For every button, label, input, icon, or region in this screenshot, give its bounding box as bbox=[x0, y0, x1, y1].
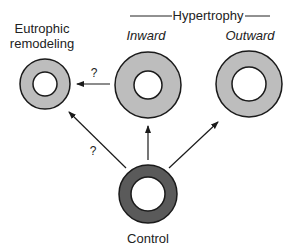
inward-label: Inward bbox=[126, 28, 166, 43]
control-vessel bbox=[119, 165, 177, 223]
edge-label-control-eutrophic: ? bbox=[90, 144, 97, 158]
eutrophic-vessel bbox=[20, 59, 70, 109]
edge-label-inward-eutrophic: ? bbox=[91, 66, 98, 80]
vascular-remodeling-diagram: Hypertrophy Eutrophic remodeling Inward … bbox=[0, 0, 290, 251]
eutrophic-label-line1: Eutrophic bbox=[15, 21, 70, 36]
hypertrophy-label: Hypertrophy bbox=[173, 8, 244, 23]
inward-vessel bbox=[115, 52, 181, 118]
outward-label: Outward bbox=[225, 28, 275, 43]
arrow-control-to-eutrophic bbox=[69, 112, 126, 168]
arrow-control-to-outward bbox=[169, 122, 218, 168]
control-label: Control bbox=[127, 231, 169, 246]
outward-vessel bbox=[216, 51, 282, 117]
eutrophic-label-line2: remodeling bbox=[10, 36, 74, 51]
